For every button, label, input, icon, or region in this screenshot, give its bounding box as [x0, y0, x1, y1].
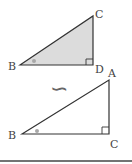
label-bottom-a: A [107, 67, 117, 80]
label-bottom-b: B [8, 129, 16, 142]
similar-triangles-diagram: B C D ∽ B A C [0, 0, 132, 164]
top-triangle: B C D [8, 8, 104, 76]
label-bottom-c: C [110, 138, 118, 151]
label-top-c: C [95, 8, 103, 21]
triangle-bcd [20, 16, 93, 65]
angle-mark-b [32, 59, 36, 63]
label-top-d: D [95, 63, 104, 76]
label-top-b: B [8, 60, 16, 73]
angle-mark-b [35, 129, 39, 133]
similarity-symbol: ∽ [50, 76, 68, 101]
